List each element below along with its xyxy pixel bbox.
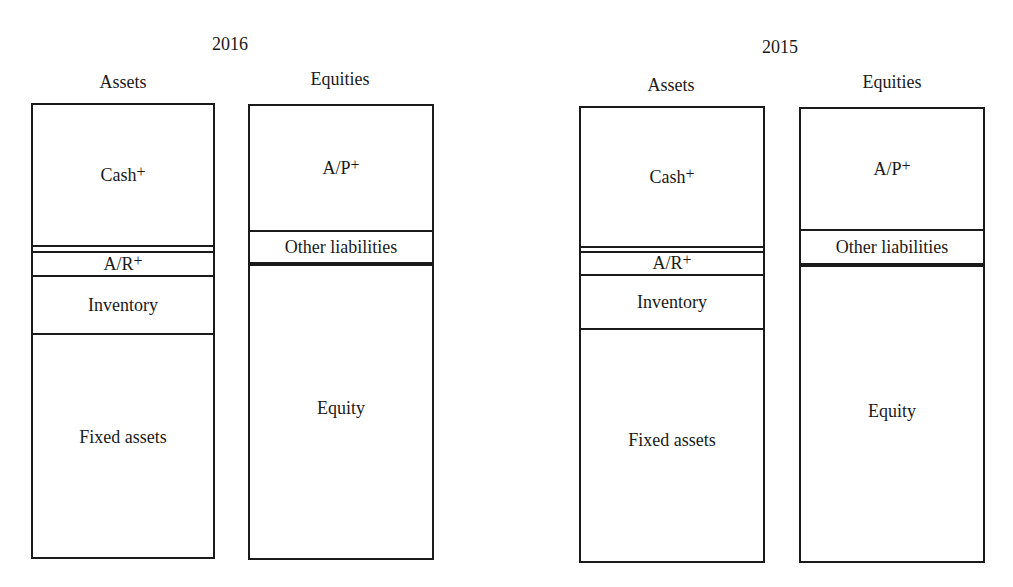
year-label-2015: 2015 <box>762 37 798 58</box>
equities-title-2015: Equities <box>792 72 992 93</box>
segment-ap: A/P+ <box>250 106 432 230</box>
segment-inventory: Inventory <box>33 277 213 333</box>
year-label-2016: 2016 <box>212 34 248 55</box>
assets-box-2016: Cash+ A/R+ Inventory Fixed assets <box>31 103 215 559</box>
segment-ap: A/P+ <box>801 109 983 229</box>
segment-fixed-assets: Fixed assets <box>33 335 213 559</box>
segment-other-liabilities: Other liabilities <box>801 231 983 263</box>
divider <box>581 246 763 248</box>
segment-inventory: Inventory <box>581 276 763 328</box>
segment-cash: Cash+ <box>581 108 763 246</box>
segment-label: A/P <box>873 159 901 180</box>
segment-label: Fixed assets <box>79 427 167 448</box>
segment-label: Other liabilities <box>836 237 948 258</box>
segment-equity: Equity <box>801 267 983 563</box>
segment-label: Cash <box>649 167 685 188</box>
segment-ar: A/R+ <box>33 253 213 275</box>
segment-label: Fixed assets <box>628 430 716 451</box>
segment-label: A/P <box>322 158 350 179</box>
assets-title-2016: Assets <box>23 72 223 93</box>
assets-box-2015: Cash+ A/R+ Inventory Fixed assets <box>579 106 765 563</box>
segment-equity: Equity <box>250 266 432 560</box>
segment-label: Equity <box>868 401 916 422</box>
equities-box-2015: A/P+ Other liabilities Equity <box>799 107 985 563</box>
segment-label: Cash <box>100 165 136 186</box>
divider <box>33 245 213 247</box>
segment-cash: Cash+ <box>33 105 213 245</box>
segment-label: Inventory <box>88 295 158 316</box>
segment-label: Inventory <box>637 292 707 313</box>
segment-label: A/R <box>652 253 682 274</box>
segment-fixed-assets: Fixed assets <box>581 330 763 563</box>
assets-title-2015: Assets <box>571 75 771 96</box>
segment-ar: A/R+ <box>581 253 763 273</box>
equities-box-2016: A/P+ Other liabilities Equity <box>248 104 434 560</box>
segment-other-liabilities: Other liabilities <box>250 232 432 262</box>
segment-label: A/R <box>103 254 133 275</box>
segment-label: Other liabilities <box>285 237 397 258</box>
equities-title-2016: Equities <box>240 69 440 90</box>
segment-label: Equity <box>317 398 365 419</box>
